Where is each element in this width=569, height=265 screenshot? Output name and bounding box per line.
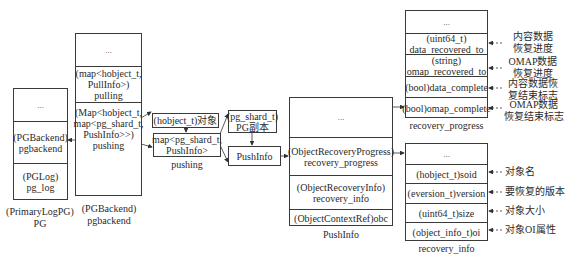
rp-section-ellipsis: ... <box>406 11 487 33</box>
note-text: 对象名 <box>505 166 535 177</box>
pgbackend-caption: (PGBackend) pgbackend <box>68 203 150 227</box>
pushinfo-caption: PushInfo <box>289 229 393 241</box>
note-version: 要恢复的版本 <box>505 186 565 198</box>
ellipsis-text: ... <box>105 45 112 56</box>
ri-section-ellipsis: ... <box>406 144 487 164</box>
note-data-recovered-to: 内容数据 恢复进度 <box>503 31 563 55</box>
data-recovered-to-text: (uint64_t) data_recovered_to <box>410 33 484 55</box>
map-type-line2: PushInfo> <box>166 145 208 156</box>
recovery-progress-caption-text: recovery_progress <box>410 120 484 131</box>
note-size: 对象大小 <box>505 205 545 217</box>
omap-complete-text: (bool)omap_complete <box>402 103 490 114</box>
pg-section-pgbackend: (PGBackend) pgbackend <box>14 121 67 163</box>
note-text: 内容数据 恢复进度 <box>513 31 553 54</box>
note-text: 要恢复的版本 <box>505 186 565 197</box>
ellipsis-text: ... <box>37 100 44 111</box>
pgbackend-section-pushing: (Map<hobject_t, map<pg_shard_t, PushInfo… <box>76 102 141 196</box>
pgbackend-caption-name: pgbackend <box>68 215 150 227</box>
pushinfo-struct-box: ... (ObjectRecoveryProgress) recovery_pr… <box>289 97 393 226</box>
pushinfo-value-box: PushInfo <box>228 146 281 166</box>
pgbackend-section-ellipsis: ... <box>76 34 141 66</box>
ellipsis-text: ... <box>443 149 450 160</box>
soid-text: (hobject_t)soid <box>416 169 477 180</box>
ri-section-size: (uint64_t)size <box>406 203 487 222</box>
recovery-progress-caption: recovery_progress <box>400 120 493 132</box>
note-text: 对象大小 <box>505 205 545 216</box>
data-complete-text: (bool)data_complete <box>405 82 488 93</box>
ri-section-soid: (hobject_t)soid <box>406 164 487 183</box>
pushinfo-section-recovery-progress: (ObjectRecoveryProgress) recovery_progre… <box>290 137 392 175</box>
rp-section-omap-recovered-to: (string) omap_recovered_to <box>406 54 487 76</box>
recovery-progress-field-text: (ObjectRecoveryProgress) recovery_progre… <box>288 146 394 168</box>
note-omap-recovered-to: OMAP数据 恢复进度 <box>503 56 563 80</box>
pg-struct-box: ... (PGBackend) pgbackend (PGLog) pg_log <box>13 88 68 200</box>
note-text: 对象OI属性 <box>505 224 556 235</box>
pgbackend-struct-box: ... (map<hobject_t, PullInfo>) pulling (… <box>75 33 142 196</box>
pg-shard-map-box: map<pg_shard_t, PushInfo> <box>153 133 221 157</box>
note-text: OMAP数据 恢复结束标志 <box>504 99 564 122</box>
obc-field-text: (ObjectContextRef)obc <box>294 213 388 224</box>
pushinfo-section-obc: (ObjectContextRef)obc <box>290 209 392 226</box>
pushing-field-text: (Map<hobject_t, map<pg_shard_t, PushInfo… <box>74 107 144 151</box>
recovery-info-caption-text: recovery_info <box>418 243 474 254</box>
omap-recovered-to-text: (string) omap_recovered_to <box>407 55 486 77</box>
pushinfo-value-text: PushInfo <box>236 151 272 162</box>
ri-section-oi: (object_info_t)oi <box>406 222 487 241</box>
pushinfo-section-recovery-info: (ObjectRecoveryInfo) recovery_info <box>290 175 392 209</box>
ellipsis-text: ... <box>338 112 345 123</box>
pgbackend-caption-type: (PGBackend) <box>68 203 150 215</box>
pg-section-ellipsis: ... <box>14 89 67 121</box>
hobject-key-box: (hobject_t)对象 <box>152 113 219 128</box>
pgbackend-field-text: (PGBackend) pgbackend <box>13 132 67 154</box>
rp-section-data-complete: (bool)data_complete <box>406 76 487 97</box>
pushinfo-caption-text: PushInfo <box>323 229 359 240</box>
oi-text: (object_info_t)oi <box>413 227 481 238</box>
pgbackend-section-pulling: (map<hobject_t, PullInfo>) pulling <box>76 66 141 102</box>
pushing-map-caption: pushing <box>153 159 221 171</box>
rp-section-omap-complete: (bool)omap_complete <box>406 97 487 118</box>
pg-shard-box: (pg_shard_t) PG副本 <box>228 110 277 133</box>
recovery-info-field-text: (ObjectRecoveryInfo) recovery_info <box>297 182 385 204</box>
size-text: (uint64_t)size <box>419 208 475 219</box>
version-text: (eversion_t)version <box>408 188 486 199</box>
pushing-caption-text: pushing <box>171 159 203 170</box>
note-omap-complete: OMAP数据 恢复结束标志 <box>501 99 567 123</box>
note-text: OMAP数据 恢复进度 <box>509 56 558 79</box>
recovery-info-caption: recovery_info <box>400 243 493 255</box>
pg-shard-type-text: (pg_shard_t) <box>227 111 278 122</box>
map-type-line1: map<pg_shard_t, <box>152 134 222 145</box>
pulling-field-text: (map<hobject_t, PullInfo>) pulling <box>76 68 142 101</box>
note-text: 内容数据恢 复结束标志 <box>508 78 558 101</box>
pushinfo-section-ellipsis: ... <box>290 98 392 137</box>
note-oi: 对象OI属性 <box>505 224 556 236</box>
rp-section-data-recovered-to: (uint64_t) data_recovered_to <box>406 33 487 54</box>
recovery-info-struct-box: ... (hobject_t)soid (eversion_t)version … <box>405 143 488 241</box>
pg-section-pglog: (PGLog) pg_log <box>14 163 67 200</box>
ellipsis-text: ... <box>443 17 450 28</box>
pg-replica-text: PG副本 <box>236 122 269 133</box>
pglog-field-text: (PGLog) pg_log <box>23 171 59 193</box>
note-soid: 对象名 <box>505 166 535 178</box>
ri-section-version: (eversion_t)version <box>406 183 487 203</box>
hobject-key-text: (hobject_t)对象 <box>154 115 218 126</box>
recovery-progress-struct-box: ... (uint64_t) data_recovered_to (string… <box>405 10 488 118</box>
